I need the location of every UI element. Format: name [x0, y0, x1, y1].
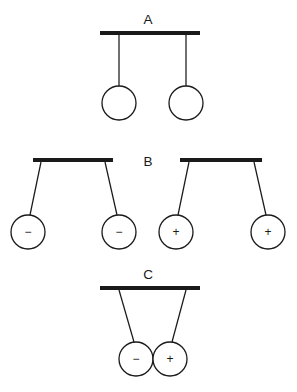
panel-a: A [100, 12, 203, 120]
panel-b-group-positive: + + [159, 160, 285, 249]
panel-c: C − + [100, 267, 200, 376]
panel-c-charge-positive: + [166, 352, 173, 366]
panel-a-sphere-left [102, 86, 136, 120]
panel-b-charge-negative-left: − [24, 225, 31, 239]
panel-b-right-string-left [178, 162, 189, 215]
panel-c-label: C [143, 267, 153, 282]
panel-b-left-string-left [30, 162, 41, 215]
panel-c-charge-negative: − [132, 352, 139, 366]
panel-b: B − − + + [11, 154, 285, 249]
panel-c-string-left [119, 290, 134, 342]
panel-b-charge-negative-right: − [115, 225, 122, 239]
panel-c-string-right [172, 290, 186, 342]
panel-b-right-string-right [254, 162, 266, 215]
panel-b-charge-positive-left: + [172, 225, 179, 239]
diagram-canvas: A B − − [0, 0, 297, 392]
panel-b-charge-positive-right: + [264, 225, 271, 239]
panel-b-label: B [143, 154, 152, 169]
panel-b-left-string-right [105, 162, 117, 215]
electrostatics-diagram: A B − − [0, 0, 297, 392]
panel-b-group-negative: − − [11, 160, 136, 249]
panel-a-label: A [143, 12, 152, 27]
panel-a-sphere-right [169, 86, 203, 120]
